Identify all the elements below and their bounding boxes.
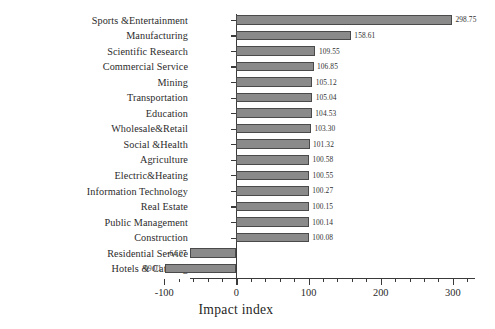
bar: [236, 186, 308, 196]
x-tick-label: 0: [234, 287, 239, 299]
bar-value-label: 298.75: [456, 15, 477, 25]
bar: [236, 155, 309, 165]
bar: [236, 93, 312, 103]
x-tick-minor: [294, 279, 295, 282]
x-tick-minor: [280, 279, 281, 282]
bar: [165, 264, 236, 274]
bar: [236, 217, 308, 227]
x-tick-minor: [222, 279, 223, 282]
bar-value-label: 104.53: [315, 109, 336, 119]
x-tick-minor: [179, 279, 180, 282]
bar-value-label: 100.14: [312, 218, 333, 228]
plot-area: 298.75158.61109.55106.85105.12105.04104.…: [0, 0, 495, 329]
bar: [236, 171, 309, 181]
bar: [236, 139, 309, 149]
bar-value-label: 101.32: [313, 140, 334, 150]
x-tick-major: [453, 279, 454, 285]
bar-value-label: 100.27: [312, 186, 333, 196]
x-tick-minor: [352, 279, 353, 282]
x-tick-minor: [410, 279, 411, 282]
bar: [236, 233, 308, 243]
x-tick-label: -100: [155, 287, 174, 299]
x-tick-major: [164, 279, 165, 285]
bar-value-label: 105.12: [316, 78, 337, 88]
x-tick-major: [309, 279, 310, 285]
x-tick-label: 300: [445, 287, 461, 299]
x-tick-minor: [366, 279, 367, 282]
bar: [236, 31, 350, 41]
x-tick-label: 100: [301, 287, 317, 299]
x-tick-minor: [395, 279, 396, 282]
bar-value-label: 105.04: [316, 93, 337, 103]
bar: [190, 248, 236, 258]
bar: [236, 124, 311, 134]
bar-value-label: 106.85: [317, 62, 338, 72]
bar: [236, 62, 313, 72]
bar: [236, 46, 315, 56]
bar-value-label: 109.55: [319, 47, 340, 57]
impact-index-bar-chart: Sports &EntertainmentManufacturingScient…: [0, 0, 495, 329]
bar-value-label: 100.58: [312, 155, 333, 165]
bar-value-label: -64.07: [167, 249, 187, 259]
bar-value-label: 100.55: [312, 171, 333, 181]
bar-value-label: -99.01: [142, 264, 162, 274]
bar-value-label: 100.15: [312, 202, 333, 212]
bar-value-label: 103.30: [314, 124, 335, 134]
x-tick-minor: [467, 279, 468, 282]
x-tick-minor: [193, 279, 194, 282]
x-tick-minor: [424, 279, 425, 282]
x-tick-minor: [337, 279, 338, 282]
x-tick-major: [236, 279, 237, 285]
x-tick-minor: [208, 279, 209, 282]
bar: [236, 202, 308, 212]
x-tick-minor: [265, 279, 266, 282]
x-tick-major: [381, 279, 382, 285]
x-axis-title: Impact index: [199, 302, 274, 318]
bar-value-label: 158.61: [354, 31, 375, 41]
bar: [236, 108, 311, 118]
bar-value-label: 100.08: [312, 233, 333, 243]
x-tick-minor: [323, 279, 324, 282]
x-tick-minor: [438, 279, 439, 282]
x-axis-line: [190, 278, 475, 279]
x-tick-minor: [251, 279, 252, 282]
bar: [236, 77, 312, 87]
bar: [236, 15, 452, 25]
x-tick-label: 200: [373, 287, 389, 299]
